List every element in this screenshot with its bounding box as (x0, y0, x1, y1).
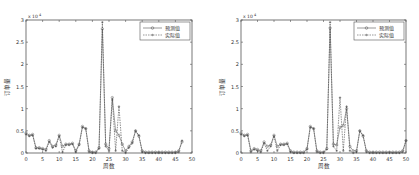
legend-label-actual: 实际值 (165, 32, 180, 39)
series-actual-line (241, 22, 406, 153)
y-tick-label: 0.5 (16, 128, 24, 134)
legend-label-predicted: 预测值 (165, 25, 180, 32)
x-tick-label: 30 (122, 156, 128, 162)
y-tick-label: 1.5 (231, 84, 239, 90)
y-tick-label: 2.5 (16, 39, 24, 45)
x-tick-label: 0 (239, 156, 242, 162)
marker-plus (118, 105, 120, 107)
legend-label-actual: 实际值 (379, 32, 394, 39)
y-tick-label: 2 (21, 61, 24, 67)
y-tick-label: 1 (21, 106, 24, 112)
x-tick-label: 10 (271, 156, 277, 162)
y-tick-label: 3 (236, 17, 239, 23)
marker-plus (309, 126, 311, 128)
y-tick-label: 0.5 (231, 128, 239, 134)
y-tick-label: 0 (236, 150, 239, 156)
chart-right: 0510152025303540455000.511.522.53x 104周数… (210, 0, 419, 175)
chart-right-svg: 0510152025303540455000.511.522.53x 104周数… (210, 0, 419, 175)
y-tick-label: 1 (236, 106, 239, 112)
y-tick-label: 2.5 (231, 39, 239, 45)
y-axis-label: 订单量 (218, 78, 226, 96)
svg-text:4: 4 (254, 13, 257, 17)
legend: 预测值实际值 (354, 22, 404, 40)
x-tick-label: 10 (56, 156, 62, 162)
y-tick-label: 3 (21, 17, 24, 23)
y-tick-label: 0 (21, 150, 24, 156)
x-tick-label: 25 (106, 156, 112, 162)
series-actual-line (26, 22, 182, 153)
chart-left-svg: 0510152025303540455000.511.522.53x 104周数… (0, 0, 210, 175)
x-tick-label: 45 (386, 156, 392, 162)
series-predicted-line (241, 28, 406, 152)
marker-plus (111, 99, 113, 101)
y-axis-label: 订单量 (3, 78, 11, 96)
marker-plus (101, 21, 103, 23)
x-axis-label: 周数 (103, 162, 115, 170)
marker-plus (345, 105, 347, 107)
x-tick-label: 0 (24, 156, 27, 162)
x-tick-label: 5 (41, 156, 44, 162)
marker-plus (329, 21, 331, 23)
chart-left: 0510152025303540455000.511.522.53x 104周数… (0, 0, 210, 175)
x-tick-label: 20 (89, 156, 95, 162)
y-tick-label: 1.5 (16, 84, 24, 90)
svg-text:4: 4 (39, 13, 42, 17)
x-tick-label: 50 (189, 156, 195, 162)
x-tick-label: 30 (337, 156, 343, 162)
marker-plus (108, 150, 110, 152)
marker-plus (336, 150, 338, 152)
marker-plus (339, 96, 341, 98)
x-tick-label: 35 (139, 156, 145, 162)
marker-plus (81, 126, 83, 128)
x-tick-label: 5 (256, 156, 259, 162)
marker-plus (124, 152, 126, 154)
marker-plus (349, 150, 351, 152)
y-exponent-label: x 10 (28, 14, 38, 19)
marker-plus (276, 150, 278, 152)
x-tick-label: 15 (287, 156, 293, 162)
x-tick-label: 15 (73, 156, 79, 162)
y-tick-label: 2 (236, 61, 239, 67)
x-tick-label: 35 (353, 156, 359, 162)
x-tick-label: 45 (172, 156, 178, 162)
x-axis-label: 周数 (318, 162, 330, 170)
legend: 预测值实际值 (140, 22, 190, 40)
y-exponent-label: x 10 (243, 14, 253, 19)
marker-plus (114, 150, 116, 152)
x-tick-label: 40 (156, 156, 162, 162)
x-tick-label: 50 (403, 156, 409, 162)
marker-plus (342, 150, 344, 152)
x-tick-label: 40 (370, 156, 376, 162)
marker-plus (326, 148, 328, 150)
legend-label-predicted: 预测值 (379, 25, 394, 32)
marker-plus (266, 150, 268, 152)
x-tick-label: 20 (304, 156, 310, 162)
x-tick-label: 25 (320, 156, 326, 162)
